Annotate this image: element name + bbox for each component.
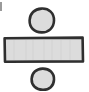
division-sign-graphic [0,0,89,92]
edge-mark [0,2,2,11]
bottom-dot-icon [32,69,54,90]
top-dot-icon [30,9,54,33]
division-icon [0,0,89,92]
